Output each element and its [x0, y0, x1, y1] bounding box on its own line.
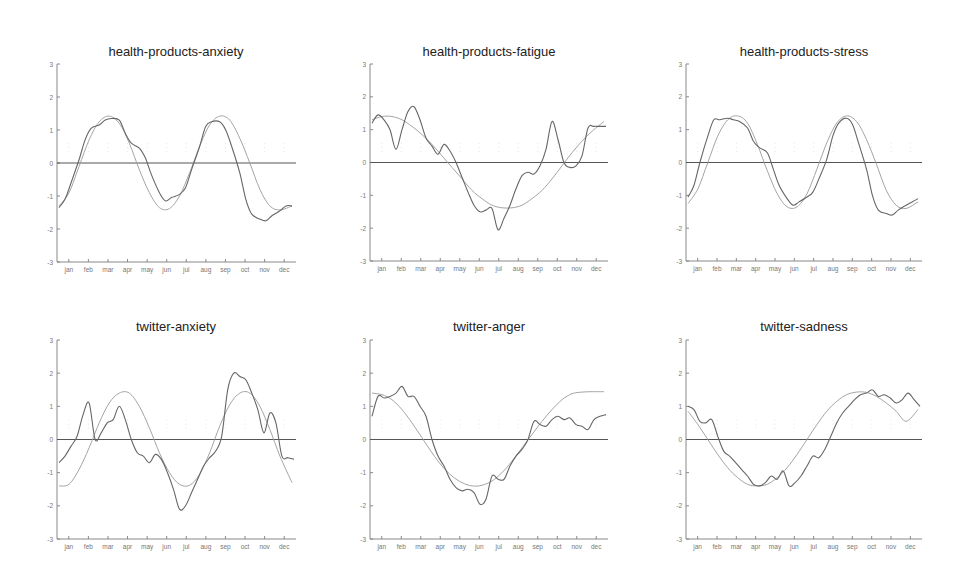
y-tick-label: -3	[360, 536, 366, 543]
series-fit	[372, 392, 604, 486]
x-tick-label: jan	[376, 265, 386, 273]
x-tick-label: jun	[789, 543, 799, 551]
x-tick-label: jul	[809, 543, 817, 551]
x-tick-label: aug	[513, 543, 524, 551]
x-tick-label: oct	[867, 265, 876, 272]
x-tick-label: jan	[692, 265, 702, 273]
x-tick-label: may	[141, 266, 154, 274]
x-tick-label: aug	[828, 543, 839, 551]
y-tick-label: 3	[678, 337, 682, 344]
subplot-health-products-anxiety: health-products-anxiety -3-2-10123janfeb…	[47, 44, 296, 274]
x-tick-label: mar	[102, 266, 114, 273]
y-tick-label: -1	[47, 469, 53, 476]
x-tick-label: aug	[828, 265, 839, 273]
x-tick-label: feb	[84, 543, 93, 550]
x-tick-label: aug	[200, 543, 211, 551]
y-tick-label: -3	[676, 258, 682, 265]
x-tick-label: sep	[847, 265, 858, 273]
x-tick-label: may	[769, 265, 782, 273]
x-tick-label: feb	[397, 543, 406, 550]
y-tick-label: -3	[47, 536, 53, 543]
y-tick-label: 1	[362, 403, 366, 410]
y-tick-label: 0	[678, 159, 682, 166]
x-tick-label: jun	[474, 265, 484, 273]
x-tick-label: sep	[533, 543, 544, 551]
x-tick-label: sep	[220, 543, 231, 551]
x-tick-label: mar	[102, 543, 114, 550]
y-tick-label: 3	[49, 337, 53, 344]
y-tick-label: 2	[49, 94, 53, 101]
x-tick-label: oct	[867, 543, 876, 550]
subplot-title: twitter-sadness	[760, 319, 848, 334]
x-tick-label: jul	[809, 265, 817, 273]
y-tick-label: -3	[47, 259, 53, 266]
x-tick-label: dec	[591, 265, 602, 272]
x-tick-label: nov	[572, 543, 583, 550]
subplot-health-products-fatigue: health-products-fatigue -3-2-10123janfeb…	[360, 44, 608, 273]
x-tick-label: dec	[279, 543, 290, 550]
x-tick-label: apr	[123, 543, 133, 551]
y-tick-label: -3	[676, 536, 682, 543]
x-tick-label: oct	[241, 543, 250, 550]
x-tick-label: feb	[712, 543, 721, 550]
y-tick-label: 0	[362, 436, 366, 443]
y-tick-label: 1	[678, 126, 682, 133]
y-tick-label: -1	[676, 469, 682, 476]
x-tick-label: apr	[436, 543, 446, 551]
subplot-title: health-products-stress	[740, 44, 869, 59]
x-tick-label: may	[141, 543, 154, 551]
series-observed	[372, 386, 606, 504]
y-tick-label: -2	[47, 226, 53, 233]
series-observed	[59, 373, 294, 511]
x-tick-label: mar	[415, 265, 427, 272]
y-tick-label: -1	[676, 192, 682, 199]
y-tick-label: -2	[360, 502, 366, 509]
y-tick-label: 3	[678, 61, 682, 68]
series-observed	[688, 390, 920, 487]
subplot-twitter-sadness: twitter-sadness -3-2-10123janfebmaraprma…	[676, 319, 922, 551]
x-tick-label: aug	[513, 265, 524, 273]
x-tick-label: jul	[182, 266, 190, 274]
x-tick-label: feb	[397, 265, 406, 272]
x-tick-label: mar	[731, 265, 743, 272]
y-tick-label: -3	[360, 258, 366, 265]
figure: health-products-anxiety -3-2-10123janfeb…	[0, 0, 970, 576]
y-tick-label: 3	[362, 61, 366, 68]
x-tick-label: nov	[886, 543, 897, 550]
y-tick-label: 2	[362, 370, 366, 377]
x-tick-label: jun	[789, 265, 799, 273]
x-tick-label: mar	[731, 543, 743, 550]
x-tick-label: jul	[494, 543, 502, 551]
x-tick-label: oct	[553, 543, 562, 550]
x-tick-label: dec	[591, 543, 602, 550]
x-tick-label: jun	[474, 543, 484, 551]
series-fit	[688, 392, 918, 486]
y-tick-label: 1	[362, 126, 366, 133]
subplot-health-products-stress: health-products-stress -3-2-10123janfebm…	[676, 44, 922, 273]
x-tick-label: nov	[886, 265, 897, 272]
y-tick-label: -2	[360, 225, 366, 232]
subplot-title: health-products-fatigue	[423, 44, 556, 59]
subplot-title: twitter-anger	[453, 319, 526, 334]
y-tick-label: -1	[360, 469, 366, 476]
y-tick-label: 0	[678, 436, 682, 443]
x-tick-label: sep	[533, 265, 544, 273]
y-tick-label: 2	[678, 93, 682, 100]
x-tick-label: apr	[751, 265, 761, 273]
x-tick-label: dec	[279, 266, 290, 273]
x-tick-label: jun	[161, 266, 171, 274]
subplot-title: twitter-anxiety	[136, 319, 217, 334]
y-tick-label: 1	[678, 403, 682, 410]
y-tick-label: -1	[47, 193, 53, 200]
x-tick-label: mar	[415, 543, 427, 550]
y-tick-label: 3	[362, 337, 366, 344]
x-tick-label: feb	[84, 266, 93, 273]
y-tick-label: 1	[49, 127, 53, 134]
x-tick-label: jul	[494, 265, 502, 273]
x-tick-label: sep	[847, 543, 858, 551]
x-tick-label: aug	[200, 266, 211, 274]
y-tick-label: -2	[676, 502, 682, 509]
x-tick-label: sep	[220, 266, 231, 274]
series-observed	[372, 106, 606, 230]
x-tick-label: nov	[572, 265, 583, 272]
